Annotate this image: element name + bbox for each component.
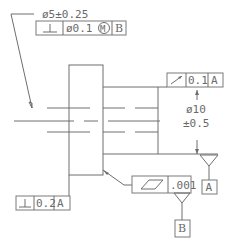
top-dimension-text: ø5±0.25 [42,8,88,21]
runout-feature-control-frame: 0.1 A [158,73,223,87]
flatness-tolerance: .001 [170,179,197,192]
svg-text:M: M [100,24,106,34]
diameter-dimension: ø10 ±0.5 [158,90,218,154]
bottom-left-feature-control-frame: 0.2 A [16,175,70,210]
top-frame-tolerance: ø0.1 [66,22,93,35]
datum-b-label: B [178,222,186,235]
diameter-value: ø10 [186,103,206,116]
shaft-flange [69,65,103,175]
bottom-left-datum: A [57,197,64,210]
bottom-left-tolerance: 0.2 [36,197,56,210]
hole-lines [14,108,160,132]
top-leader [11,14,34,108]
flatness-feature-control-frame: .001 [103,170,197,193]
datum-b-symbol: B [174,193,190,237]
top-feature-control-frame: ø0.1 M B [36,21,126,35]
diameter-tolerance: ±0.5 [183,117,210,130]
datum-a-symbol: A [200,155,218,194]
datum-a-label: A [206,181,213,194]
runout-tolerance: 0.1 [188,74,208,87]
gdt-drawing: ø5±0.25 ø0.1 M B [0,0,230,250]
top-frame-datum: B [115,22,123,35]
runout-datum: A [211,74,218,87]
